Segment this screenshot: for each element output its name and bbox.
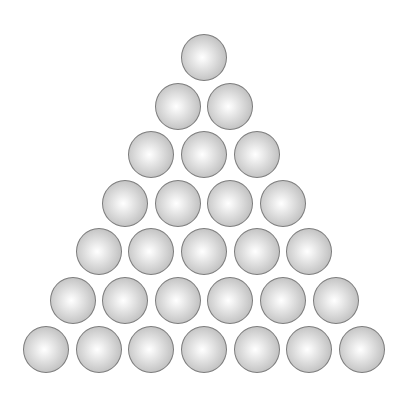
sphere-ball	[286, 326, 332, 373]
sphere-ball	[313, 277, 359, 324]
sphere-ball	[155, 83, 201, 130]
sphere-ball	[234, 228, 280, 275]
sphere-triangle-diagram	[0, 0, 411, 402]
sphere-ball	[339, 326, 385, 373]
sphere-ball	[50, 277, 96, 324]
sphere-ball	[260, 180, 306, 227]
sphere-ball	[181, 131, 227, 178]
sphere-ball	[181, 326, 227, 373]
sphere-ball	[23, 326, 69, 373]
sphere-ball	[234, 326, 280, 373]
sphere-ball	[286, 228, 332, 275]
sphere-ball	[128, 326, 174, 373]
sphere-ball	[181, 228, 227, 275]
sphere-ball	[207, 83, 253, 130]
sphere-ball	[234, 131, 280, 178]
sphere-ball	[155, 180, 201, 227]
sphere-ball	[102, 277, 148, 324]
sphere-ball	[155, 277, 201, 324]
sphere-ball	[207, 277, 253, 324]
sphere-ball	[181, 34, 227, 81]
sphere-ball	[76, 228, 122, 275]
sphere-ball	[128, 228, 174, 275]
sphere-ball	[128, 131, 174, 178]
sphere-ball	[102, 180, 148, 227]
sphere-ball	[260, 277, 306, 324]
sphere-ball	[76, 326, 122, 373]
sphere-ball	[207, 180, 253, 227]
